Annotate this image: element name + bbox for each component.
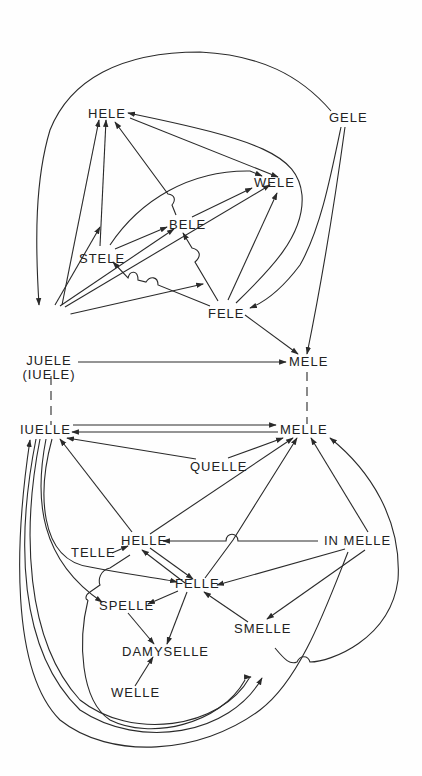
edge-juele-fele: [70, 281, 203, 317]
edge-juele-stele: [55, 227, 100, 305]
edge-inmelle-felle: [217, 549, 345, 585]
edge-stele-bele: [115, 227, 167, 249]
node-bele: BELE: [169, 218, 206, 232]
node-melle: MELLE: [280, 423, 328, 437]
edge-smelle-melle: [275, 438, 398, 663]
node-welle: WELLE: [111, 686, 160, 700]
edge-hele-wele: [130, 118, 278, 177]
edge-bele-wele: [192, 188, 252, 217]
diagram-canvas: HELE GELE WELE BELE STELE FELE JUELE (IU…: [0, 0, 422, 776]
node-smelle: SMELLE: [234, 622, 291, 636]
edge-quelle-iuelle: [67, 438, 196, 459]
node-fele: FELE: [208, 307, 245, 321]
edge-stele-wele: [110, 171, 262, 245]
edge-welle-damyselle: [135, 657, 153, 686]
node-stele: STELE: [79, 252, 125, 266]
node-juele: JUELE (IUELE): [22, 354, 76, 382]
edge-inmelle-melle: [311, 438, 368, 532]
edge-inmelle-helle: [163, 534, 318, 541]
node-mele: MELE: [289, 355, 328, 369]
node-spelle: SPELLE: [99, 599, 154, 613]
node-gele: GELE: [329, 111, 368, 125]
edge-fele-bele: [183, 233, 218, 301]
edge-helle-spelle: [86, 555, 130, 600]
edge-fele-hele: [128, 113, 302, 303]
edge-helle-iuelle: [60, 439, 132, 532]
node-damyselle: DAMYSELLE: [122, 645, 209, 659]
node-wele: WELE: [254, 176, 295, 190]
node-juele-label: JUELE: [22, 354, 76, 368]
node-telle: TELLE: [71, 546, 116, 560]
edge-smelle-felle: [204, 592, 248, 622]
node-juele-sublabel: (IUELE): [22, 368, 76, 382]
edge-quelle-melle: [228, 438, 283, 458]
edge-fele-wele: [228, 193, 277, 300]
edge-felle-damyselle: [167, 592, 187, 644]
edge-iuelle-felle: [44, 439, 177, 582]
node-helle: HELLE: [121, 534, 167, 548]
node-felle: FELLE: [175, 577, 220, 591]
edge-helle-loop: [83, 600, 245, 729]
edge-bele-hele: [115, 122, 176, 215]
edge-inmelle-smelle: [267, 550, 365, 619]
edge-stele-hele: [100, 120, 106, 246]
node-quelle: QUELLE: [190, 460, 247, 474]
node-in-melle: IN MELLE: [324, 534, 391, 548]
edge-inmelle-iuelle: [20, 440, 348, 747]
edge-juele-hele: [62, 120, 99, 305]
edge-helle-melle: [150, 438, 293, 534]
edge-spelle-damyselle: [128, 613, 154, 644]
edge-gele-fele: [250, 127, 341, 308]
node-iuelle: IUELLE: [20, 423, 71, 437]
edge-helle-felle: [150, 548, 193, 579]
edge-gele-mele: [307, 127, 345, 354]
node-hele: HELE: [88, 107, 126, 121]
edge-iuelle-spelle: [41, 439, 102, 602]
edge-fele-mele: [245, 315, 298, 354]
edge-fele-stele: [113, 262, 210, 306]
